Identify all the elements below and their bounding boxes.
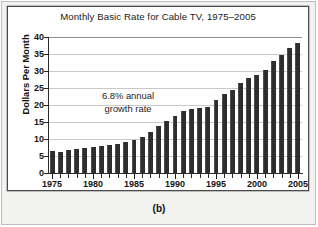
x-tick-label: 2005	[280, 179, 316, 189]
bar	[82, 148, 87, 173]
y-tick-mark	[44, 105, 49, 106]
figure-caption: (b)	[0, 203, 318, 214]
bar	[123, 142, 128, 173]
y-tick-label: 40	[24, 32, 44, 42]
x-tick-mark-minor	[232, 174, 233, 178]
bar	[99, 146, 104, 173]
x-tick-mark-minor	[290, 174, 291, 178]
x-tick-mark-minor	[191, 174, 192, 178]
bar	[107, 145, 112, 173]
x-tick-mark-minor	[167, 174, 168, 178]
y-tick-label: 30	[24, 66, 44, 76]
x-tick-mark-minor	[60, 174, 61, 178]
bar	[50, 151, 55, 173]
bar	[254, 75, 259, 173]
y-tick-mark	[44, 71, 49, 72]
x-tick-mark-minor	[273, 174, 274, 178]
y-tick-mark	[44, 156, 49, 157]
y-tick-label: 5	[24, 151, 44, 161]
chart-title: Monthly Basic Rate for Cable TV, 1975–20…	[8, 11, 308, 22]
y-tick-mark	[44, 139, 49, 140]
x-tick-mark-minor	[208, 174, 209, 178]
x-tick-mark-minor	[249, 174, 250, 178]
bar	[74, 149, 79, 173]
x-tick-mark-minor	[241, 174, 242, 178]
x-tick-mark-minor	[200, 174, 201, 178]
bar	[173, 116, 178, 173]
x-tick-mark-minor	[183, 174, 184, 178]
x-tick-mark-minor	[224, 174, 225, 178]
bar	[295, 43, 300, 173]
x-tick-mark-minor	[68, 174, 69, 178]
x-tick-mark-minor	[159, 174, 160, 178]
bar	[66, 150, 71, 173]
gridline	[48, 37, 302, 38]
bar	[58, 152, 63, 173]
x-tick-mark-minor	[142, 174, 143, 178]
bar	[222, 94, 227, 173]
bar	[238, 83, 243, 173]
bar	[246, 78, 251, 173]
x-tick-mark-minor	[109, 174, 110, 178]
bar	[156, 126, 161, 173]
bar	[189, 109, 194, 173]
bar	[214, 100, 219, 173]
bar	[230, 90, 235, 173]
bar	[279, 55, 284, 173]
y-tick-mark	[44, 54, 49, 55]
x-tick-mark-minor	[126, 174, 127, 178]
bar	[197, 108, 202, 173]
x-tick-label: 1975	[34, 179, 70, 189]
y-tick-label: 0	[24, 168, 44, 178]
y-tick-label: 35	[24, 49, 44, 59]
x-tick-label: 1995	[198, 179, 234, 189]
bar	[115, 144, 120, 173]
bar	[91, 147, 96, 173]
y-tick-mark	[44, 173, 49, 174]
bar	[148, 132, 153, 173]
x-tick-label: 1985	[116, 179, 152, 189]
bar	[205, 107, 210, 173]
bar	[181, 111, 186, 173]
bar	[140, 137, 145, 173]
bar	[271, 61, 276, 173]
y-tick-mark	[44, 122, 49, 123]
x-tick-mark-minor	[118, 174, 119, 178]
plot-area	[48, 37, 302, 173]
y-tick-mark	[44, 88, 49, 89]
bar	[132, 140, 137, 173]
x-tick-mark-minor	[150, 174, 151, 178]
figure-root: Monthly Basic Rate for Cable TV, 1975–20…	[0, 0, 318, 227]
bar	[287, 48, 292, 173]
x-tick-mark-minor	[282, 174, 283, 178]
bar	[263, 70, 268, 173]
x-tick-label: 1990	[157, 179, 193, 189]
x-tick-mark-minor	[85, 174, 86, 178]
x-tick-mark-minor	[101, 174, 102, 178]
y-tick-label: 20	[24, 100, 44, 110]
y-tick-label: 15	[24, 117, 44, 127]
x-tick-label: 2000	[239, 179, 275, 189]
gridline	[48, 54, 302, 55]
y-tick-mark	[44, 37, 49, 38]
x-tick-mark-minor	[265, 174, 266, 178]
chart-container: Monthly Basic Rate for Cable TV, 1975–20…	[7, 6, 309, 191]
x-tick-mark-minor	[77, 174, 78, 178]
y-tick-label: 10	[24, 134, 44, 144]
y-axis-tick-labels: 0510152025303540	[22, 37, 44, 173]
y-tick-label: 25	[24, 83, 44, 93]
bar	[164, 121, 169, 173]
x-tick-label: 1980	[75, 179, 111, 189]
